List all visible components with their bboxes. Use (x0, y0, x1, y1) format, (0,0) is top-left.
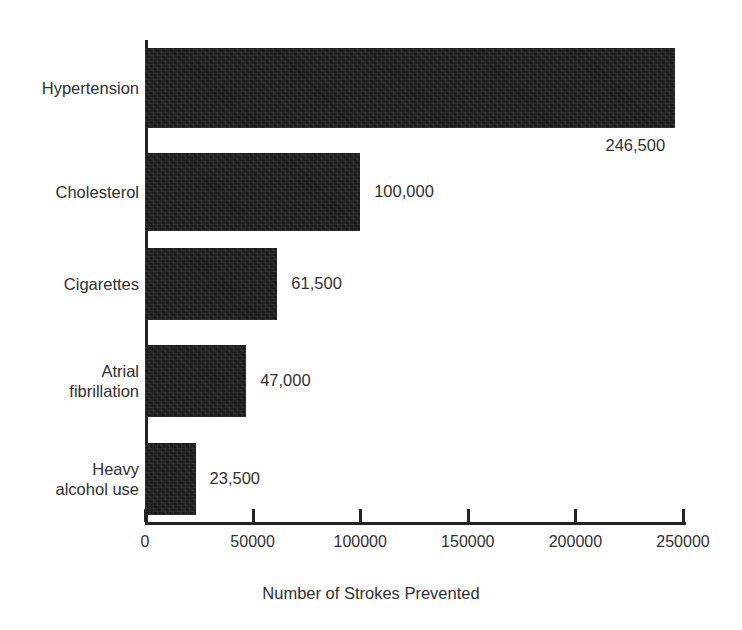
category-label: Atrial fibrillation (0, 361, 139, 401)
bar-value-label: 100,000 (374, 182, 434, 201)
stroke-prevention-bar-chart: 050000100000150000200000250000 Hypertens… (0, 0, 742, 630)
x-axis-tick-label: 50000 (230, 533, 275, 551)
bar-row (145, 153, 360, 231)
bar-row (145, 248, 277, 320)
category-label: Heavy alcohol use (0, 459, 139, 499)
bar-row (145, 48, 675, 128)
x-axis-tick-label: 150000 (441, 533, 494, 551)
category-label: Hypertension (0, 78, 139, 98)
bar-value-label: 47,000 (260, 371, 310, 390)
x-axis-tick (682, 509, 685, 522)
bar-value-label: 23,500 (210, 469, 260, 488)
bar (145, 248, 277, 320)
bar-row (145, 345, 246, 417)
x-axis-tick-label: 250000 (656, 533, 709, 551)
x-axis-tick-label: 200000 (549, 533, 602, 551)
bar-value-label: 61,500 (291, 274, 341, 293)
x-axis-tick (252, 509, 255, 522)
bar-value-label: 246,500 (605, 136, 665, 155)
x-axis-tick (359, 509, 362, 522)
x-axis-tick-label: 0 (141, 533, 150, 551)
x-axis-line (145, 522, 686, 525)
bar (145, 153, 360, 231)
bar-row (145, 443, 196, 515)
bar (145, 345, 246, 417)
category-label: Cholesterol (0, 182, 139, 202)
x-axis-tick (467, 509, 470, 522)
category-label: Cigarettes (0, 274, 139, 294)
x-axis-title: Number of Strokes Prevented (0, 584, 742, 603)
bar (145, 48, 675, 128)
x-axis-tick (574, 509, 577, 522)
bar (145, 443, 196, 515)
x-axis-tick-label: 100000 (333, 533, 386, 551)
